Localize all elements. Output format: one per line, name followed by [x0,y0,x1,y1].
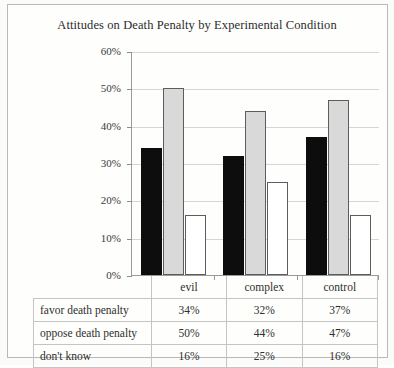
table-row-label: favor death penalty [34,299,152,322]
y-axis-tick-label: 50% [79,83,121,94]
table-header-control: control [302,276,377,299]
bar-control-oppose [328,100,349,275]
y-axis-tick-label: 20% [79,195,121,206]
bar-control-dontknow [350,215,371,275]
table-row: favor death penalty34%32%37% [34,299,378,322]
table-row: don't know16%25%16% [34,345,378,368]
y-axis-tick-label: 10% [79,233,121,244]
bar-evil-dontknow [185,215,206,275]
table-cell-evil: 16% [152,345,227,368]
bar-group-control [297,51,379,275]
page-title: Attitudes on Death Penalty by Experiment… [0,18,394,33]
bar-complex-oppose [245,111,266,275]
bar-complex-favor [223,156,244,275]
table-row-label: don't know [34,345,152,368]
table-cell-control: 47% [302,322,377,345]
table-cell-evil: 50% [152,322,227,345]
y-axis-tick-label: 30% [79,158,121,169]
table-cell-complex: 25% [226,345,302,368]
y-axis-tick-label: 0% [79,270,121,281]
table-cell-evil: 34% [152,299,227,322]
y-axis-tick-label: 40% [79,121,121,132]
plot-area [131,52,378,276]
bar-complex-dontknow [267,182,288,275]
bar-evil-favor [141,148,162,275]
y-axis-tick-label: 60% [79,46,121,57]
bar-group-evil [132,51,214,275]
table-cell-control: 16% [302,345,377,368]
table-cell-control: 37% [302,299,377,322]
bar-evil-oppose [163,88,184,275]
table-header-complex: complex [226,276,302,299]
table-cell-complex: 44% [226,322,302,345]
table-cell-complex: 32% [226,299,302,322]
table-header-evil: evil [152,276,227,299]
table-row: oppose death penalty50%44%47% [34,322,378,345]
bar-group-complex [214,51,296,275]
bar-control-favor [306,137,327,275]
table-row-label: oppose death penalty [34,322,152,345]
x-axis-end-tick [378,275,379,280]
data-table: evilcomplexcontrolfavor death penalty34%… [33,276,378,368]
